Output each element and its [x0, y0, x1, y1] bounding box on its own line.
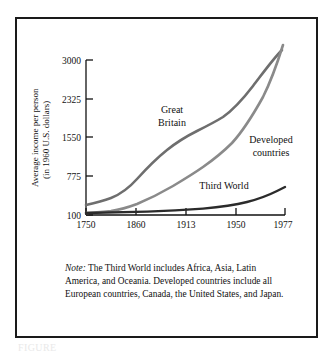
y-tick-label-1: 775: [67, 172, 82, 182]
figure-note-text: The Third World includes Africa, Asia, L…: [65, 263, 283, 299]
figure-note: Note: The Third World includes Africa, A…: [65, 262, 290, 302]
y-axis-title-line1: Average income per person: [30, 88, 40, 187]
series-label-developed-countries: Developed countries: [249, 134, 292, 158]
y-tick-label-3: 2325: [62, 95, 81, 105]
y-axis-title-line2: (in 1960 U.S. dollars): [41, 101, 51, 179]
series-label-third-world: Third World: [199, 180, 248, 191]
series-line-developed-countries: [86, 45, 283, 213]
y-tick-label-0: 100: [67, 211, 82, 221]
figure-caption-partial: FIGURE: [18, 342, 318, 353]
y-tick-label-4: 3000: [62, 56, 81, 66]
x-tick-label-3: 1950: [227, 220, 246, 230]
series-label-great-britain: Great Britain: [158, 104, 186, 128]
chart-plot-area: Average income per person (in 1960 U.S. …: [17, 19, 316, 259]
x-axis-tick-labels: 1750 1860 1913 1950 1977: [77, 220, 293, 230]
x-tick-label-2: 1913: [177, 220, 196, 230]
y-axis-title: Average income per person (in 1960 U.S. …: [30, 88, 51, 187]
x-tick-label-4: 1977: [274, 220, 293, 230]
series-label-great-britain-line2: Britain: [158, 117, 186, 128]
series-label-developed-countries-line1: Developed: [249, 134, 292, 145]
series-label-developed-countries-line2: countries: [253, 147, 290, 158]
figure-frame: Average income per person (in 1960 U.S. …: [15, 17, 318, 338]
y-axis-tick-labels: 100 775 1550 2325 3000: [62, 56, 81, 221]
x-tick-label-1: 1860: [127, 220, 146, 230]
x-tick-label-0: 1750: [77, 220, 96, 230]
y-axis-ticks: [86, 60, 93, 215]
y-tick-label-2: 1550: [62, 133, 81, 143]
series-label-great-britain-line1: Great: [161, 104, 183, 115]
figure-note-label: Note:: [65, 263, 86, 273]
